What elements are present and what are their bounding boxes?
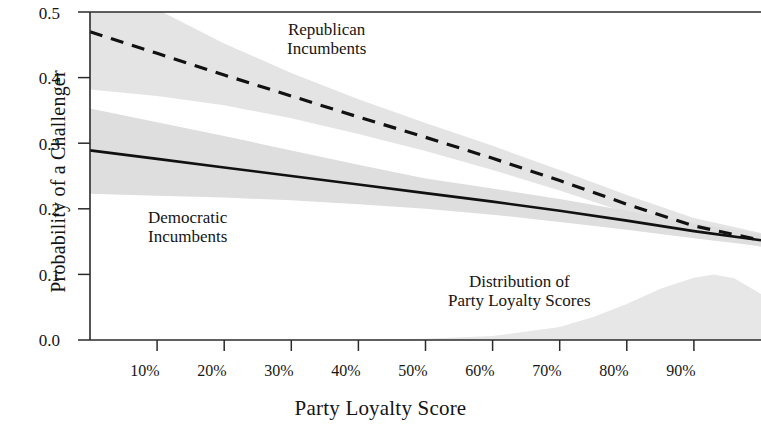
distribution-annotation: Distribution of Party Loyalty Scores — [448, 272, 591, 310]
x-tick-label: 10% — [115, 362, 175, 380]
distribution-annotation-line2: Party Loyalty Scores — [448, 291, 591, 310]
x-tick-label: 60% — [450, 362, 510, 380]
x-axis-title: Party Loyalty Score — [0, 396, 761, 421]
x-tick-label: 40% — [316, 362, 376, 380]
y-axis-title: Probability of a Challenger — [47, 32, 70, 332]
x-tick-label: 80% — [584, 362, 644, 380]
democratic-incumbents-annotation: Democratic Incumbents — [148, 208, 227, 246]
figure-panel: 0.5 0.4 0.3 0.2 0.1 0.0 10% 20% 30% 40% … — [0, 0, 761, 435]
x-tick-label: 90% — [651, 362, 711, 380]
y-axis-ticks — [78, 12, 90, 340]
democratic-annotation-line1: Democratic — [148, 208, 227, 227]
x-tick-label: 70% — [517, 362, 577, 380]
democratic-annotation-line2: Incumbents — [148, 227, 227, 246]
republican-annotation-line1: Republican — [287, 20, 366, 39]
x-axis-ticks — [157, 340, 694, 351]
y-tick-label: 0.0 — [8, 331, 60, 351]
x-tick-label: 20% — [182, 362, 242, 380]
republican-incumbents-annotation: Republican Incumbents — [287, 20, 366, 58]
party-loyalty-distribution — [90, 274, 761, 340]
distribution-annotation-line1: Distribution of — [448, 272, 591, 291]
x-tick-label: 50% — [383, 362, 443, 380]
republican-annotation-line2: Incumbents — [287, 39, 366, 58]
y-tick-label: 0.5 — [8, 4, 60, 24]
x-tick-label: 30% — [249, 362, 309, 380]
